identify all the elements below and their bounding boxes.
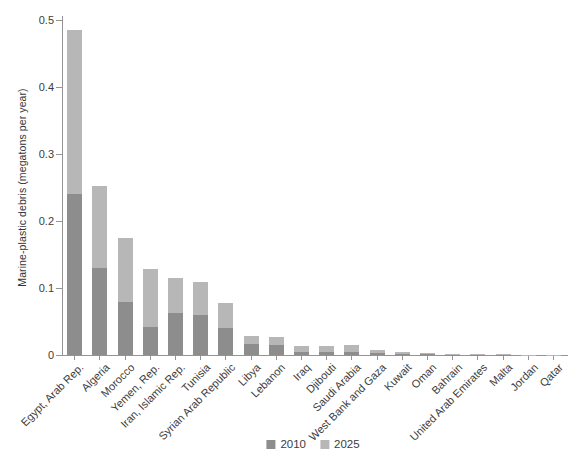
bar-2025-segment [319,346,334,352]
x-tick-mark [427,356,428,360]
y-axis-line [62,16,63,355]
x-tick-label: Egypt, Arab Rep. [19,361,86,428]
bar-2025-segment [370,350,385,353]
y-tick-mark [56,20,62,21]
bar-2025-segment [193,282,208,316]
marine-plastic-debris-chart: Marine-plastic debris (megatons per year… [0,0,584,467]
x-tick-mark [175,356,176,360]
x-tick-label: Kuwait [382,361,414,393]
bar-2010-segment [420,354,435,355]
bar-2010-segment [370,353,385,355]
y-tick-label: 0.5 [18,13,54,27]
bar-2025-segment [143,269,158,327]
y-tick-label: 0.2 [18,214,54,228]
x-tick-mark [452,356,453,360]
bar-2025-segment [218,303,233,327]
bar-2010-segment [168,313,183,355]
x-tick-mark [503,356,504,360]
bar-2025-segment [445,354,460,355]
y-tick-label: 0.3 [18,147,54,161]
bar-2025-segment [294,346,309,351]
x-tick-mark [276,356,277,360]
legend-item: 2025 [320,438,360,450]
x-tick-mark [377,356,378,360]
bar-2010-segment [319,352,334,355]
x-tick-mark [74,356,75,360]
bar-2025-segment [118,238,133,302]
x-tick-label: Qatar [537,361,565,389]
x-tick-mark [326,356,327,360]
x-tick-mark [251,356,252,360]
legend-label: 2010 [280,438,306,450]
bar-2025-segment [395,352,410,353]
bar-2025-segment [269,337,284,345]
y-tick-label: 0 [18,348,54,362]
bar-2010-segment [143,327,158,355]
bar-2010-segment [218,328,233,355]
y-tick-mark [56,355,62,356]
x-tick-mark [125,356,126,360]
x-tick-mark [553,356,554,360]
legend-swatch-2025 [320,440,329,449]
y-tick-label: 0.4 [18,80,54,94]
x-tick-mark [351,356,352,360]
bar-2025-segment [92,186,107,268]
x-tick-mark [477,356,478,360]
legend-label: 2025 [334,438,360,450]
y-tick-mark [56,87,62,88]
bar-2010-segment [344,352,359,355]
bar-2010-segment [67,194,82,355]
x-axis-line [62,355,568,356]
bar-2010-segment [118,302,133,355]
x-tick-mark [528,356,529,360]
y-tick-label: 0.1 [18,281,54,295]
bar-2025-segment [344,345,359,352]
bar-2010-segment [244,344,259,355]
bar-2010-segment [294,352,309,355]
bar-2025-segment [244,336,259,345]
x-tick-mark [402,356,403,360]
y-tick-mark [56,288,62,289]
legend-item: 2010 [266,438,306,450]
bar-2025-segment [67,30,82,194]
bar-2025-segment [168,278,183,313]
x-tick-mark [225,356,226,360]
y-axis-title: Marine-plastic debris (megatons per year… [16,20,28,355]
legend-swatch-2010 [266,440,275,449]
bar-2025-segment [420,353,435,354]
x-tick-mark [150,356,151,360]
bar-2010-segment [193,315,208,355]
x-tick-mark [200,356,201,360]
x-tick-label: Jordan [507,361,539,393]
bar-2010-segment [395,354,410,355]
x-tick-mark [301,356,302,360]
bar-2010-segment [269,345,284,355]
bar-2010-segment [92,268,107,355]
y-tick-mark [56,221,62,222]
x-tick-mark [99,356,100,360]
y-tick-mark [56,154,62,155]
